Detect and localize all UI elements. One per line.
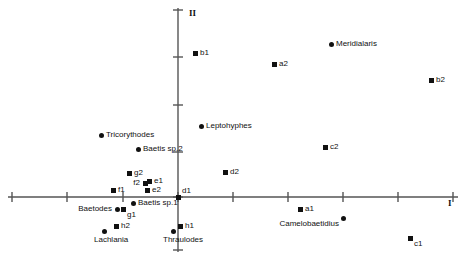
sample-marker-square-icon [408, 236, 413, 241]
taxon-marker-circle-icon [341, 216, 346, 221]
data-point-label: Meridialaris [336, 39, 377, 48]
sample-marker-square-icon [178, 224, 183, 229]
data-point-label: d2 [230, 167, 239, 176]
sample-marker-square-icon [127, 171, 132, 176]
sample-marker-square-icon [272, 62, 277, 67]
axis-ticks [12, 10, 453, 250]
taxon-marker-circle-icon [329, 42, 334, 47]
data-point-label: g2 [134, 168, 143, 177]
data-point-label: c2 [330, 142, 338, 151]
data-point-label: g1 [127, 210, 136, 219]
taxon-marker-circle-icon [136, 147, 141, 152]
sample-marker-square-icon [323, 145, 328, 150]
sample-marker-square-icon [114, 224, 119, 229]
taxon-marker-circle-icon [99, 133, 104, 138]
data-point-label: Baetis sp.2 [143, 144, 183, 153]
data-point-label: e1 [154, 176, 163, 185]
x-axis-label: I [448, 198, 452, 208]
data-point-label: a1 [305, 204, 314, 213]
y-axis-label: II [189, 8, 196, 18]
sample-marker-square-icon [429, 78, 434, 83]
sample-marker-square-icon [145, 188, 150, 193]
data-point-label: Camelobaetidius [279, 219, 339, 228]
taxon-marker-circle-icon [199, 124, 204, 129]
taxon-marker-circle-icon [102, 229, 107, 234]
data-point-label: d1 [182, 186, 191, 195]
sample-marker-square-icon [298, 207, 303, 212]
data-point-label: b2 [436, 75, 445, 84]
sample-marker-square-icon [147, 179, 152, 184]
sample-marker-square-icon [121, 207, 126, 212]
data-point-label: a2 [279, 59, 288, 68]
data-point-label: Baetodes [78, 204, 112, 213]
data-point-label: Thraulodes [163, 235, 203, 244]
data-point-label: h2 [121, 221, 130, 230]
taxon-marker-circle-icon [115, 207, 120, 212]
sample-marker-square-icon [111, 188, 116, 193]
taxon-marker-circle-icon [171, 229, 176, 234]
sample-marker-square-icon [223, 170, 228, 175]
sample-marker-square-icon [193, 51, 198, 56]
taxon-marker-circle-icon [131, 201, 136, 206]
data-point-label: c1 [414, 239, 422, 248]
data-point-label: Tricorythodes [106, 130, 154, 139]
data-point-label: f1 [118, 185, 125, 194]
axes-group [0, 0, 464, 260]
axis-lines [8, 8, 458, 252]
data-point-label: b1 [200, 48, 209, 57]
data-point-label: f2 [133, 178, 140, 187]
scatter-plot-figure: II I b1a2b2c2g2f2e1e2f1d1d2g1h2h1a1c1Mer… [0, 0, 464, 260]
data-point-label: h1 [185, 221, 194, 230]
data-point-label: Lachlania [94, 235, 128, 244]
data-point-label: Leptohyphes [206, 121, 252, 130]
data-point-label: e2 [152, 185, 161, 194]
data-point-label: Baetis sp.1 [138, 198, 178, 207]
